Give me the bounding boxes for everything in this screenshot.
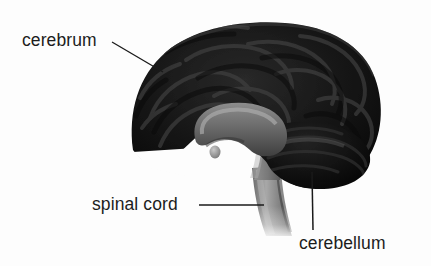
cerebellum-leader-line: [312, 172, 313, 230]
label-spinal-cord: spinal cord: [92, 195, 178, 214]
label-cerebellum: cerebellum: [299, 234, 386, 253]
spinal-cord-fade: [246, 206, 304, 240]
brain-anatomy-figure: cerebrum spinal cord cerebellum: [0, 0, 431, 266]
label-cerebrum: cerebrum: [22, 31, 97, 50]
pituitary-gland: [210, 146, 221, 159]
